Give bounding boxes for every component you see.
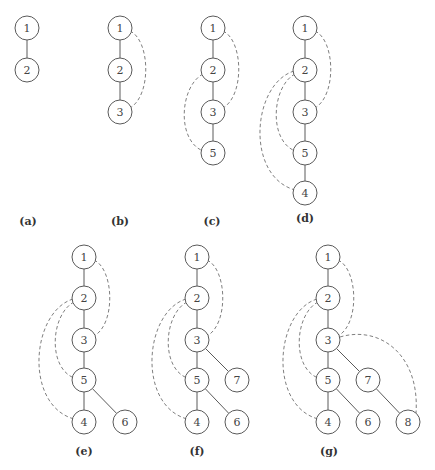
tree-edge-5-6 <box>92 389 116 414</box>
node-label: 7 <box>365 374 372 387</box>
node-label: 3 <box>194 334 201 347</box>
node-2: 2 <box>293 58 317 82</box>
node-1: 1 <box>293 16 317 40</box>
node-2: 2 <box>108 58 132 82</box>
node-label: 5 <box>194 374 201 387</box>
node-1: 1 <box>72 245 96 269</box>
node-label: 4 <box>194 416 201 429</box>
node-1: 1 <box>201 16 225 40</box>
node-label: 3 <box>325 334 332 347</box>
node-label: 5 <box>325 374 332 387</box>
node-label: 1 <box>81 251 88 264</box>
node-label: 3 <box>81 334 88 347</box>
node-7: 7 <box>356 368 380 392</box>
node-label: 6 <box>234 416 241 429</box>
node-5: 5 <box>293 141 317 165</box>
dfs-tree-figure: 12123123512354123546123574612357468 (a)(… <box>0 0 435 470</box>
node-3: 3 <box>316 328 340 352</box>
node-label: 1 <box>24 22 31 35</box>
node-label: 3 <box>117 106 124 119</box>
back-edges-layer <box>39 31 416 419</box>
node-label: 2 <box>325 292 332 305</box>
node-2: 2 <box>185 286 209 310</box>
captions-layer: (a)(b)(c)(d)(e)(f)(g) <box>19 212 338 458</box>
node-1: 1 <box>15 16 39 40</box>
node-5: 5 <box>201 141 225 165</box>
node-label: 6 <box>122 416 129 429</box>
node-2: 2 <box>316 286 340 310</box>
node-label: 5 <box>210 147 217 160</box>
back-edge-2-4 <box>260 71 295 190</box>
node-3: 3 <box>72 328 96 352</box>
back-edge-2-5 <box>55 302 74 378</box>
node-3: 3 <box>293 100 317 124</box>
node-3: 3 <box>201 100 225 124</box>
node-4: 4 <box>316 410 340 434</box>
panel-caption: (b) <box>111 215 129 228</box>
node-label: 2 <box>24 64 31 77</box>
panel-caption: (a) <box>19 215 37 228</box>
node-1: 1 <box>316 245 340 269</box>
node-label: 3 <box>302 106 309 119</box>
node-label: 5 <box>302 147 309 160</box>
node-4: 4 <box>185 410 209 434</box>
node-2: 2 <box>72 286 96 310</box>
node-label: 6 <box>365 416 372 429</box>
node-2: 2 <box>15 58 39 82</box>
node-label: 2 <box>81 292 88 305</box>
node-label: 1 <box>325 251 332 264</box>
node-label: 4 <box>325 416 332 429</box>
back-edge-2-5 <box>168 302 187 378</box>
node-2: 2 <box>201 58 225 82</box>
panel-caption: (e) <box>75 445 92 458</box>
back-edge-2-4 <box>39 299 74 419</box>
tree-edge-5-6 <box>336 389 359 414</box>
node-label: 1 <box>194 251 201 264</box>
node-label: 7 <box>234 374 241 387</box>
panel-caption: (c) <box>203 215 220 228</box>
back-edge-2-4 <box>152 299 187 419</box>
back-edge-2-5 <box>276 74 295 151</box>
node-5: 5 <box>185 368 209 392</box>
tree-edge-5-6 <box>205 389 228 414</box>
node-label: 3 <box>210 106 217 119</box>
node-label: 1 <box>117 22 124 35</box>
node-1: 1 <box>185 245 209 269</box>
back-edge-2-5 <box>299 302 318 378</box>
panel-caption: (g) <box>320 445 338 458</box>
panel-caption: (f) <box>189 445 204 458</box>
tree-edge-7-8 <box>376 389 399 414</box>
node-3: 3 <box>108 100 132 124</box>
tree-edge-3-7 <box>336 348 359 371</box>
node-label: 1 <box>302 22 309 35</box>
panel-caption: (d) <box>296 212 314 225</box>
back-edge-2-4 <box>283 299 318 419</box>
node-6: 6 <box>356 410 380 434</box>
node-label: 4 <box>81 416 88 429</box>
node-3: 3 <box>185 328 209 352</box>
node-label: 2 <box>302 64 309 77</box>
node-label: 1 <box>210 22 217 35</box>
node-7: 7 <box>225 368 249 392</box>
tree-edge-3-7 <box>205 348 228 371</box>
node-4: 4 <box>72 410 96 434</box>
node-4: 4 <box>293 181 317 205</box>
node-label: 2 <box>117 64 124 77</box>
node-5: 5 <box>316 368 340 392</box>
node-5: 5 <box>72 368 96 392</box>
node-label: 2 <box>194 292 201 305</box>
node-6: 6 <box>225 410 249 434</box>
node-label: 5 <box>81 374 88 387</box>
node-label: 4 <box>302 187 309 200</box>
node-label: 8 <box>405 416 412 429</box>
node-1: 1 <box>108 16 132 40</box>
node-label: 2 <box>210 64 217 77</box>
node-8: 8 <box>396 410 420 434</box>
back-edge-2-5 <box>184 74 203 151</box>
node-6: 6 <box>113 410 137 434</box>
